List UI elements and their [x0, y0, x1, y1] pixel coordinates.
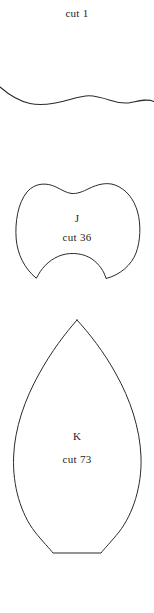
- pattern-piece-k-quantity-label: cut 73: [0, 454, 154, 465]
- pattern-sheet: cut 1 J cut 36 K cut 73: [0, 0, 154, 613]
- pattern-piece-k-outline: [0, 0, 154, 613]
- pattern-piece-k-name-label: K: [0, 431, 154, 442]
